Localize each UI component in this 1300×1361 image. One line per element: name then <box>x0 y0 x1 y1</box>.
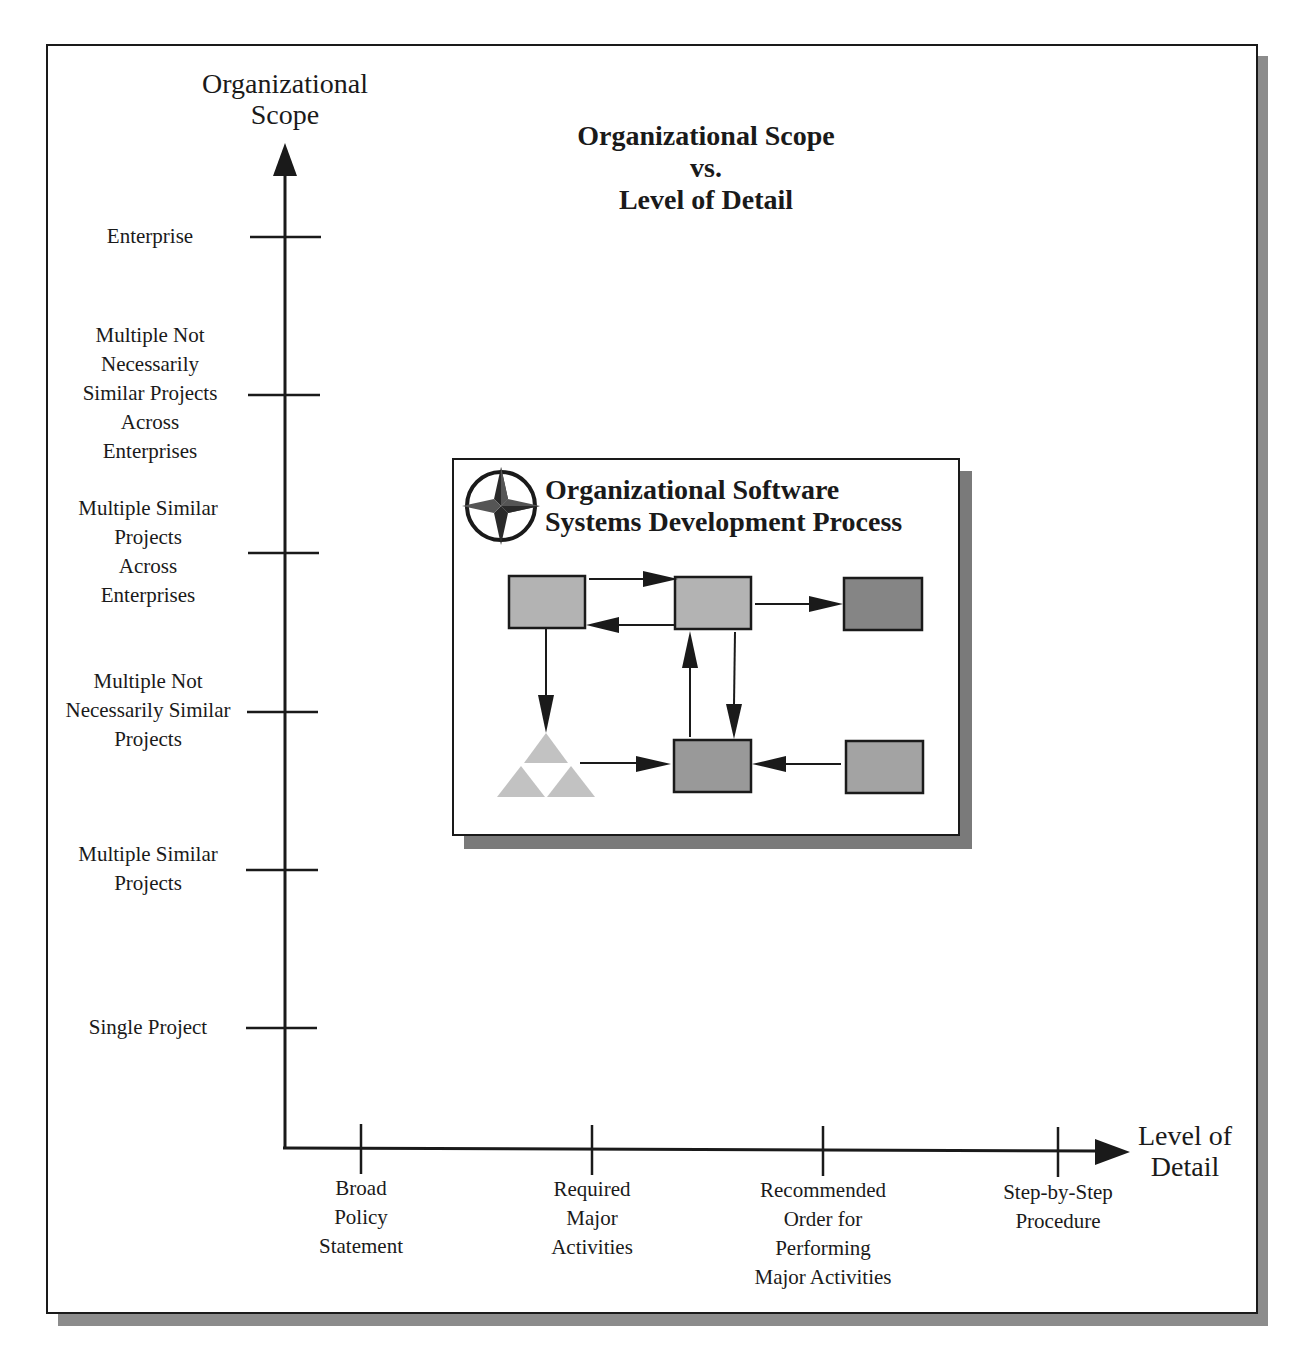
compass-star-icon <box>462 467 540 545</box>
process-box <box>846 741 923 793</box>
triangle-shape <box>497 733 595 797</box>
process-box <box>675 577 751 629</box>
process-box <box>844 578 922 630</box>
process-diagram <box>0 0 1300 1361</box>
process-box <box>674 740 751 792</box>
process-box <box>509 576 585 628</box>
